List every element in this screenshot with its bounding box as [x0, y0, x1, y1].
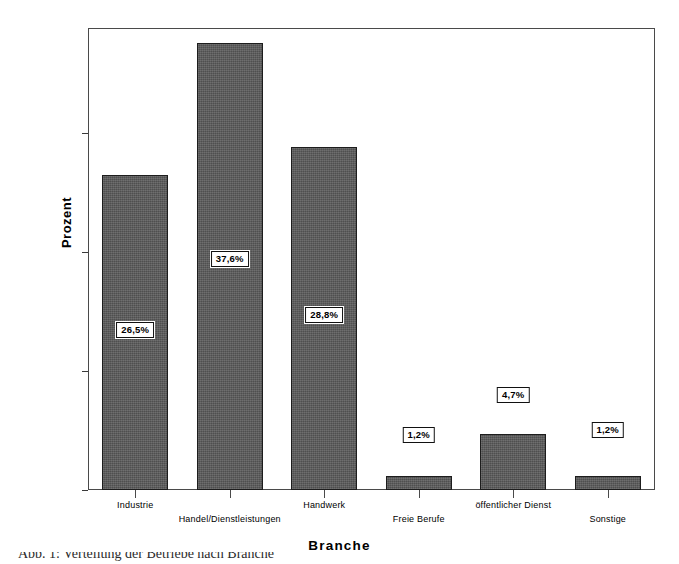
x-axis-category-label: Freie Berufe: [393, 514, 445, 524]
bar-value-label: 1,2%: [592, 422, 624, 438]
x-axis-category-label: Sonstige: [589, 514, 626, 524]
bar-value-label: 4,7%: [497, 387, 529, 403]
x-axis-tick-mark: [608, 490, 609, 498]
figure-caption: Abb. 1: Verteilung der Betriebe nach Bra…: [0, 552, 679, 564]
y-axis-tick-mark: [82, 490, 88, 491]
bar: [575, 476, 641, 490]
x-axis-category-label: Handwerk: [303, 500, 345, 510]
x-axis-category-label: Handel/Dienstleistungen: [179, 514, 281, 524]
x-axis-category-label: Industrie: [117, 500, 153, 510]
bar: [480, 434, 546, 490]
bar-value-label: 37,6%: [211, 251, 249, 267]
x-axis-tick-mark: [324, 490, 325, 498]
figure-caption-text: Abb. 1: Verteilung der Betriebe nach Bra…: [18, 552, 274, 562]
bar-value-label: 28,8%: [305, 307, 343, 323]
x-axis-title: Branche: [0, 538, 679, 553]
bar-value-label: 26,5%: [116, 322, 154, 338]
bar: [386, 476, 452, 490]
bar-value-label: 1,2%: [403, 427, 435, 443]
x-axis-category-label: öffentlicher Dienst: [475, 500, 551, 510]
x-axis-tick-mark: [419, 490, 420, 498]
chart-figure: Prozent 0,0%10,0%20,0%30,0% Industrie26,…: [0, 0, 679, 564]
x-axis-tick-mark: [230, 490, 231, 498]
y-axis-ticks: 0,0%10,0%20,0%30,0%: [0, 0, 88, 564]
x-axis-tick-mark: [135, 490, 136, 498]
plot-area: [88, 28, 655, 490]
x-axis-tick-mark: [513, 490, 514, 498]
